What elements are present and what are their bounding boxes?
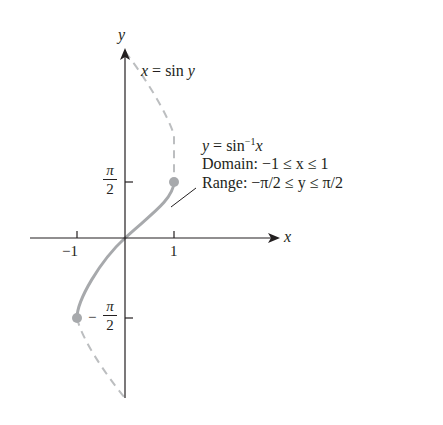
leader-line — [171, 188, 196, 207]
x-tick-label-neg1: −1 — [62, 244, 78, 259]
y-axis-label: y — [118, 27, 125, 43]
y-tick-label-neg-pi2: π 2 — [103, 299, 117, 333]
y-tick-label-pi2: π 2 — [103, 163, 117, 197]
x-axis-label: x — [284, 229, 291, 245]
range-annotation: Range: −π/2 ≤ y ≤ π/2 — [202, 175, 343, 191]
y-tick-label-neg-sign: − — [88, 310, 96, 325]
endpoint-lower — [72, 313, 82, 323]
domain-annotation: Domain: −1 ≤ x ≤ 1 — [202, 156, 329, 172]
graph-canvas — [0, 0, 443, 425]
endpoint-upper — [169, 177, 179, 187]
dashed-curve-lower — [77, 318, 125, 398]
x-tick-label-1: 1 — [170, 244, 178, 259]
label-y-equals-arcsin-x: y = sin−1x — [202, 137, 263, 154]
label-x-equals-sin-y: x = sin y — [141, 63, 195, 79]
